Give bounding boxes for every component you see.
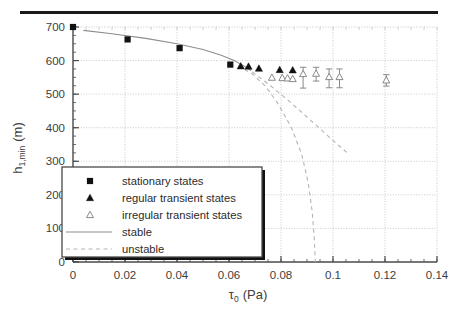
errorbars-layer xyxy=(300,67,390,88)
y-axis-tick-label: 600 xyxy=(46,55,65,67)
series-line-stable xyxy=(83,30,251,70)
y-axis-title: h1,min(m) xyxy=(10,122,27,174)
y-axis-tick-label: 500 xyxy=(46,88,65,100)
y-axis-tick-label: 400 xyxy=(46,122,65,134)
x-axis-tick-label: 0 xyxy=(70,269,76,281)
markers-layer xyxy=(70,24,390,83)
marker-irregular-transient-state xyxy=(326,73,333,79)
x-axis-title: τ0(Pa) xyxy=(229,287,267,304)
legend-label: stable xyxy=(122,226,152,238)
marker-irregular-transient-state xyxy=(313,70,320,76)
marker-stationary-state xyxy=(70,24,76,30)
legend-label: irregular transient states xyxy=(122,209,242,221)
marker-irregular-transient-state xyxy=(300,70,307,76)
marker-stationary-state xyxy=(227,62,233,68)
x-axis-tick-label: 0.1 xyxy=(325,269,341,281)
y-axis-title-unit: (m) xyxy=(10,122,25,142)
marker-irregular-transient-state xyxy=(383,77,390,83)
y-axis-tick-label: 700 xyxy=(46,21,65,33)
marker-stationary-state xyxy=(177,45,183,51)
x-axis-tick-label: 0.12 xyxy=(374,269,396,281)
y-axis-title-subscript: 1,min xyxy=(17,145,27,166)
svg-text:τ0(Pa): τ0(Pa) xyxy=(229,287,267,304)
x-axis-tick-label: 0.06 xyxy=(218,269,240,281)
x-axis-tick-label: 0.02 xyxy=(114,269,136,281)
figure-container: 00.020.040.060.080.10.120.14010020030040… xyxy=(0,0,450,314)
x-axis-tick-label: 0.08 xyxy=(270,269,292,281)
y-axis-tick-label: 300 xyxy=(46,155,65,167)
y-axis-title-symbol: h xyxy=(10,167,25,174)
series-line-unstable xyxy=(252,72,347,153)
legend-box: stationary statesregular transient state… xyxy=(62,167,265,260)
x-axis-title-unit: (Pa) xyxy=(243,287,268,302)
marker-irregular-transient-state xyxy=(289,75,296,81)
marker-regular-transient-state xyxy=(289,67,296,73)
legend-label: regular transient states xyxy=(122,192,236,204)
svg-text:h1,min(m): h1,min(m) xyxy=(10,122,27,174)
x-axis-tick-label: 0.04 xyxy=(166,269,189,281)
legend-icon-filled-square xyxy=(87,178,93,184)
marker-irregular-transient-state xyxy=(336,73,343,79)
legend-label: unstable xyxy=(122,243,164,255)
marker-stationary-state xyxy=(125,36,131,42)
marker-regular-transient-state xyxy=(255,65,262,71)
legend-label: stationary states xyxy=(122,175,204,187)
x-axis-tick-label: 0.14 xyxy=(426,269,449,281)
marker-irregular-transient-state xyxy=(268,74,275,80)
chart-plot: 00.020.040.060.080.10.120.14010020030040… xyxy=(0,0,450,314)
y-axis-tick-label: 0 xyxy=(59,256,65,268)
marker-regular-transient-state xyxy=(245,63,252,69)
marker-regular-transient-state xyxy=(276,66,283,72)
x-axis-title-subscript: 0 xyxy=(234,294,239,304)
